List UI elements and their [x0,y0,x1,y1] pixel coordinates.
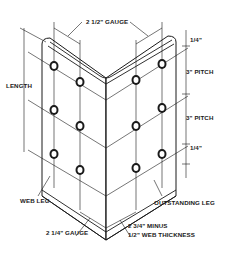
edge-bottom-label: 1/4" [190,144,202,151]
bolt-hole-icon [134,77,139,83]
length-label: LENGTH [6,82,32,89]
pitch-2-label: 3" PITCH [186,114,214,121]
gauge-bottom-label: 2 1/4" GAUGE [46,229,88,236]
bolt-hole-icon [78,167,83,173]
minus-line1-label: 2 3/4" MINUS [128,222,168,229]
bolt-hole-icon [134,165,139,171]
gauge-top-leader-left [68,22,82,36]
edge-top-label: 1/4" [190,36,202,43]
bolt-hole-icon [52,63,57,69]
gauge-top-dim-left [54,28,80,44]
gauge-top-dim-right [136,28,162,44]
bolt-hole-icon [134,123,139,129]
minus-line2-label: 1/2" WEB THICKNESS [128,231,195,238]
bolt-hole-icon [78,79,83,85]
bolt-hole-icon [78,123,83,129]
outstanding-leg-label: OUTSTANDING LEG [154,199,215,206]
pitch-1-label: 3" PITCH [186,68,214,75]
bolt-hole-icon [160,151,165,157]
gauge-top-leader-right [130,22,148,36]
bolt-hole-icon [160,61,165,67]
bolt-hole-icon [52,107,57,113]
web-leg-label: WEB LEG [20,197,50,204]
gauge-top-label: 2 1/2" GAUGE [86,18,128,25]
bolt-hole-icon [52,151,57,157]
angle-diagram: 2 1/2" GAUGE LENGTH 1/4" 3" PITCH 3" PIT… [0,0,227,254]
bolt-hole-icon [160,105,165,111]
